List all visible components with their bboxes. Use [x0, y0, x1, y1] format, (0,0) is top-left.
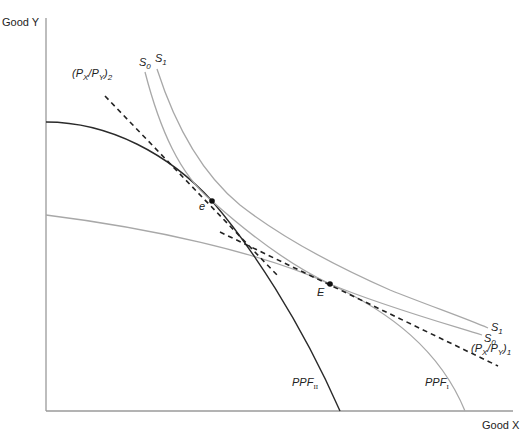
p1-slash: /P: [487, 342, 497, 354]
point-E: [327, 281, 333, 287]
ppf-i-label: PPFI: [425, 377, 449, 391]
ppf-ii-main: PPF: [292, 376, 313, 388]
ppf-ii-curve: [46, 122, 340, 411]
s0-label-sub: 0: [146, 62, 150, 71]
p1-sub: 1: [507, 348, 511, 357]
ppf-i-curve: [46, 215, 465, 411]
price-line-2: [105, 96, 278, 276]
p2-slash: /P: [88, 67, 98, 79]
x-axis-label: Good X: [482, 420, 519, 431]
point-e: [209, 198, 215, 204]
s1-right-sub: 1: [498, 327, 502, 336]
ppf-ii-sub: II: [313, 383, 318, 391]
point-E-label: E: [317, 287, 324, 298]
y-axis-label: Good Y: [2, 17, 39, 28]
s1-label-sub: 1: [162, 58, 166, 67]
s1-label-top: S1: [155, 53, 167, 67]
ppf-i-main: PPF: [425, 376, 446, 388]
s0-label-top: S0: [139, 57, 151, 71]
price-line-1: [220, 232, 498, 366]
p1-open: (P: [471, 342, 482, 354]
price-ratio-2-label: (PX/PY)2: [72, 68, 112, 82]
p2-sub: 2: [108, 73, 112, 82]
price-ratio-1-label: (PX/PY)1: [471, 343, 511, 357]
s0-indifference-curve: [145, 72, 482, 335]
ppf-diagram: [0, 0, 525, 438]
ppf-i-sub: I: [446, 383, 448, 391]
p2-open: (P: [72, 67, 83, 79]
point-e-label: e: [199, 201, 205, 212]
ppf-ii-label: PPFII: [292, 377, 318, 391]
